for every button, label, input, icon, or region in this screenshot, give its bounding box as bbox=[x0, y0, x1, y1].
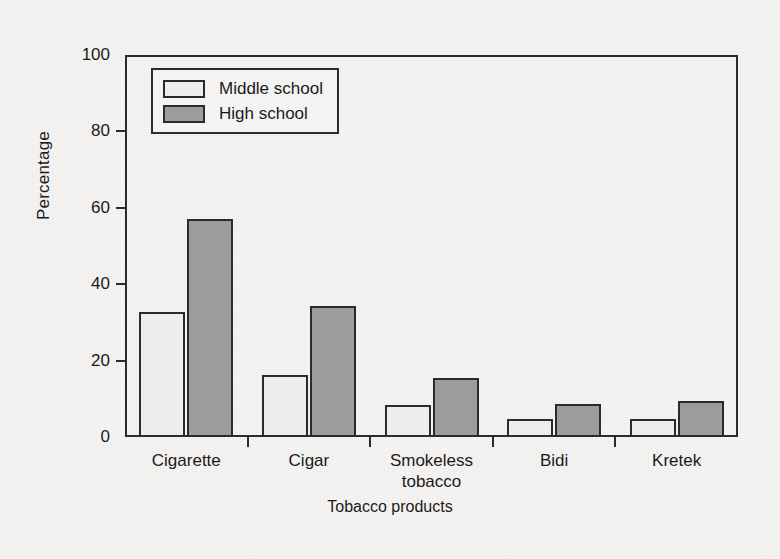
legend-swatch-middle-school bbox=[163, 80, 205, 98]
legend-swatch-high-school bbox=[163, 105, 205, 123]
y-axis-tick-mark bbox=[116, 283, 127, 285]
legend: Middle school High school bbox=[151, 68, 339, 134]
y-axis-tick-label: 60 bbox=[48, 199, 110, 216]
y-axis-tick-label: 100 bbox=[48, 46, 110, 63]
y-axis-tick-labels: 020406080100 bbox=[44, 0, 110, 559]
x-axis-tick-mark bbox=[614, 437, 616, 447]
bar-cigar-middle-school bbox=[262, 375, 308, 437]
x-axis-category-label: Cigar bbox=[248, 450, 371, 471]
x-axis-category-label: Kretek bbox=[615, 450, 738, 471]
bar-cigarette-high-school bbox=[187, 219, 233, 438]
y-axis-tick-label: 0 bbox=[48, 428, 110, 445]
legend-label-high-school: High school bbox=[219, 105, 308, 123]
x-axis-tick-mark bbox=[369, 437, 371, 447]
bar-chart-figure: Percentage 020406080100 Middle school Hi… bbox=[0, 0, 780, 559]
y-axis-tick-label: 40 bbox=[48, 275, 110, 292]
bar-smokeless-tobacco-middle-school bbox=[385, 405, 431, 437]
y-axis-tick-label: 20 bbox=[48, 352, 110, 369]
legend-label-middle-school: Middle school bbox=[219, 80, 323, 98]
bar-kretek-high-school bbox=[678, 401, 724, 437]
x-axis-category-label: Bidi bbox=[493, 450, 616, 471]
x-axis-tick-mark bbox=[492, 437, 494, 447]
x-axis-tick-mark bbox=[247, 437, 249, 447]
bar-smokeless-tobacco-high-school bbox=[433, 378, 479, 437]
bar-bidi-middle-school bbox=[507, 419, 553, 437]
y-axis-tick-label: 80 bbox=[48, 122, 110, 139]
y-axis-tick-mark bbox=[116, 360, 127, 362]
y-axis-tick-mark bbox=[116, 130, 127, 132]
legend-item-high-school: High school bbox=[163, 101, 323, 126]
x-axis-category-label: Smokeless tobacco bbox=[370, 450, 493, 492]
bar-cigarette-middle-school bbox=[139, 312, 185, 437]
bar-bidi-high-school bbox=[555, 404, 601, 437]
bar-cigar-high-school bbox=[310, 306, 356, 437]
bar-kretek-middle-school bbox=[630, 419, 676, 437]
legend-item-middle-school: Middle school bbox=[163, 76, 323, 101]
x-axis-title: Tobacco products bbox=[0, 498, 780, 516]
x-axis-category-label: Cigarette bbox=[125, 450, 248, 471]
y-axis-tick-mark bbox=[116, 207, 127, 209]
